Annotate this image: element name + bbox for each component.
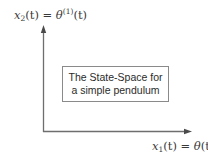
x-axis-label-arg: (t) = <box>163 139 194 153</box>
y-axis-label-superscript: (1) <box>63 7 74 16</box>
x-axis-label-tail: (t) <box>201 139 208 153</box>
caption-line-1: The State-Space for <box>69 71 163 84</box>
y-axis-arrowhead <box>41 25 46 33</box>
state-space-diagram: x2(t) = θ(1)(t) The State-Space for a si… <box>0 0 208 161</box>
x-axis-label: x1(t) = θ(t) <box>152 141 208 154</box>
y-axis-label: x2(t) = θ(1)(t) <box>14 8 87 23</box>
y-axis-label-tail: (t) <box>73 8 87 22</box>
y-axis-label-theta: θ <box>56 8 63 22</box>
caption-line-2: a simple pendulum <box>71 84 159 97</box>
y-axis-label-arg: (t) = <box>25 8 56 22</box>
caption-box: The State-Space for a simple pendulum <box>62 66 169 102</box>
x-axis-arrowhead <box>184 129 192 134</box>
x-axis-label-theta: θ <box>194 139 201 153</box>
